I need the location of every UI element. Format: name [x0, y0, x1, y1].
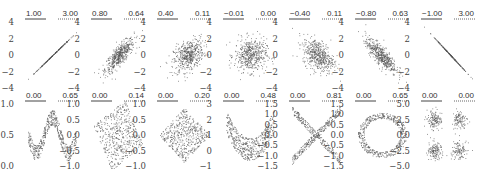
- y-tick-label: −1: [199, 161, 212, 171]
- y-tick-label: 0.5: [66, 115, 80, 125]
- correlation-label: −0.01: [224, 9, 245, 18]
- y-tick-label: 4: [405, 17, 410, 27]
- y-tick-label: 4: [207, 17, 212, 27]
- scatter-points: [424, 107, 473, 161]
- y-tick-label: 1.5: [264, 99, 278, 109]
- y-tick-label: 1.0: [264, 109, 278, 119]
- y-tick-label: 4: [9, 17, 14, 27]
- scatter-grid-figure: 420−2−41.003.00420−2−40.800.64420−2−40.4…: [0, 0, 478, 179]
- y-tick-label: 1.5: [330, 99, 344, 109]
- scatter-panel-r0-c0: 420−2−41.003.00: [1, 9, 79, 93]
- scatter-panel-r1-c6: 5.02.50.0−2.5−5.00.000.00: [389, 91, 475, 171]
- y-tick-label: −0.5: [125, 146, 146, 156]
- y-tick-label: 1: [207, 130, 212, 140]
- y-tick-label: 0.0: [396, 130, 410, 140]
- correlation-label: 1.00: [26, 9, 42, 18]
- correlation-label: 0.00: [26, 91, 42, 100]
- correlation-label: −1.00: [422, 9, 443, 18]
- correlation-label: 0.00: [92, 91, 108, 100]
- y-tick-label: 0: [339, 50, 344, 60]
- y-tick-label: −2: [133, 67, 146, 77]
- y-tick-label: −1.0: [59, 161, 80, 171]
- y-tick-label: 2.5: [396, 115, 410, 125]
- y-tick-label: 2: [339, 34, 344, 44]
- scatter-panel-r1-c2: 1.00.50.0−0.5−1.00.000.20: [125, 91, 211, 171]
- y-tick-label: 4: [75, 17, 80, 27]
- y-tick-label: 0: [75, 50, 80, 60]
- y-tick-label: 0: [207, 146, 212, 156]
- y-tick-label: 0.5: [132, 115, 146, 125]
- y-tick-label: 0.0: [66, 130, 80, 140]
- y-tick-label: 2: [405, 34, 410, 44]
- y-tick-label: 2: [141, 34, 146, 44]
- y-tick-label: 0.5: [0, 130, 14, 140]
- y-tick-label: 5.0: [396, 99, 410, 109]
- scatter-panel-r0-c3: 420−2−4−0.010.00: [199, 9, 277, 93]
- y-tick-label: −1.0: [323, 151, 344, 161]
- y-tick-label: 2: [75, 34, 80, 44]
- correlation-label: 0.00: [290, 91, 306, 100]
- y-tick-label: 0.5: [264, 120, 278, 130]
- scatter-panel-r0-c4: 420−2−4−0.400.11: [265, 9, 343, 93]
- y-tick-label: −2.5: [389, 146, 410, 156]
- y-tick-label: 1.0: [0, 99, 14, 109]
- y-tick-label: 1.0: [132, 99, 146, 109]
- correlation-label: −0.80: [356, 9, 377, 18]
- correlation-label: −0.40: [290, 9, 311, 18]
- y-tick-label: −0.5: [257, 140, 278, 150]
- y-tick-label: 2: [207, 115, 212, 125]
- correlation-label: 0.00: [422, 91, 438, 100]
- y-tick-label: −1.5: [323, 161, 344, 171]
- y-tick-label: 0: [405, 50, 410, 60]
- y-tick-label: 3: [207, 99, 212, 109]
- scatter-panel-r0-c1: 420−2−40.800.64: [67, 9, 145, 93]
- y-tick-label: −1.0: [125, 161, 146, 171]
- y-tick-label: 0.0: [264, 130, 278, 140]
- y-tick-label: 0: [9, 50, 14, 60]
- scatter-panel-r0-c2: 420−2−40.400.11: [133, 9, 211, 93]
- correlation-label: 0.40: [158, 9, 174, 18]
- y-tick-label: −1.5: [257, 161, 278, 171]
- correlation-label: 0.00: [356, 91, 372, 100]
- y-tick-label: 0: [207, 50, 212, 60]
- statistic-label: 0.00: [458, 91, 474, 100]
- y-tick-label: 1.0: [330, 109, 344, 119]
- y-tick-label: −4: [1, 83, 14, 93]
- y-tick-label: 2: [273, 34, 278, 44]
- y-tick-label: −2: [397, 67, 410, 77]
- y-tick-label: −2: [199, 67, 212, 77]
- y-tick-label: −2: [331, 67, 344, 77]
- y-tick-label: 0: [141, 50, 146, 60]
- correlation-label: 0.00: [224, 91, 240, 100]
- statistic-label: 3.00: [458, 9, 474, 18]
- y-tick-label: −0.5: [59, 146, 80, 156]
- scatter-panel-r0-c5: 420−2−4−0.800.63: [331, 9, 409, 93]
- y-tick-label: 0.5: [330, 120, 344, 130]
- y-tick-label: −2: [265, 67, 278, 77]
- y-tick-label: 1.0: [66, 99, 80, 109]
- scatter-points: [424, 27, 473, 80]
- y-tick-label: −0.5: [323, 140, 344, 150]
- y-tick-label: −5.0: [389, 161, 410, 171]
- y-tick-label: −1.0: [257, 151, 278, 161]
- y-tick-label: 0.0: [132, 130, 146, 140]
- scatter-points: [160, 109, 209, 163]
- y-tick-label: 2: [9, 34, 14, 44]
- correlation-label: 0.00: [158, 91, 174, 100]
- y-tick-label: 4: [141, 17, 146, 27]
- y-tick-label: 4: [273, 17, 278, 27]
- y-tick-label: 2: [207, 34, 212, 44]
- scatter-panel-r0-c6: 420−2−4−1.003.00: [397, 9, 475, 93]
- y-tick-label: 0.0: [330, 130, 344, 140]
- y-tick-label: −2: [67, 67, 80, 77]
- y-tick-label: 0.0: [0, 161, 14, 171]
- correlation-label: 0.80: [92, 9, 108, 18]
- y-tick-label: 4: [339, 17, 344, 27]
- y-tick-label: 0: [273, 50, 278, 60]
- y-tick-label: −2: [1, 67, 14, 77]
